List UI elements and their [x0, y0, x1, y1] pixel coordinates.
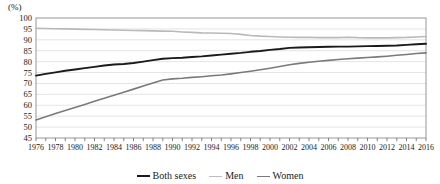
- x-axis-tick-label: 1992: [184, 143, 200, 152]
- x-axis-tick-label: 1978: [48, 143, 64, 152]
- legend-color-swatch: [137, 175, 150, 177]
- legend-item[interactable]: Women: [257, 171, 304, 181]
- x-axis-tick-labels: 1976197819801982198419861988199019921994…: [28, 143, 434, 152]
- x-axis-tick-label: 2006: [321, 143, 337, 152]
- x-axis-tick-label: 1982: [87, 143, 103, 152]
- legend-item[interactable]: Men: [209, 171, 243, 181]
- line-chart: (%) 100959085807570656055504519761978198…: [0, 0, 440, 184]
- series-line-men: [36, 28, 426, 38]
- y-axis-tick-label: 85: [24, 46, 33, 56]
- y-axis-tick-label: 75: [24, 68, 33, 78]
- x-axis-tick-label: 1976: [28, 143, 44, 152]
- y-axis-tick-label: 90: [24, 35, 33, 45]
- y-axis-tick-label: 95: [24, 24, 33, 34]
- y-axis-tick-label: 45: [24, 133, 33, 143]
- y-axis-tick-label: 80: [24, 57, 33, 67]
- legend-color-swatch: [209, 176, 222, 177]
- x-axis-ticks: [36, 138, 426, 141]
- x-axis-tick-label: 1988: [145, 143, 161, 152]
- y-axis-tick-label: 65: [24, 89, 33, 99]
- y-gridlines: 1009590858075706560555045: [19, 13, 426, 143]
- legend-label: Both sexes: [153, 171, 197, 181]
- x-axis-tick-label: 2008: [340, 143, 356, 152]
- plot-frame: [36, 18, 426, 138]
- legend-item[interactable]: Both sexes: [137, 171, 197, 181]
- legend-label: Men: [225, 171, 243, 181]
- y-axis-tick-label: 100: [19, 13, 32, 23]
- x-axis-tick-label: 2002: [282, 143, 298, 152]
- x-axis-tick-label: 1990: [165, 143, 181, 152]
- y-axis-tick-label: 50: [24, 122, 33, 132]
- x-axis-tick-label: 1994: [204, 143, 220, 152]
- x-axis-tick-label: 1996: [223, 143, 239, 152]
- series-line-women: [36, 53, 426, 120]
- legend-label: Women: [273, 171, 304, 181]
- x-axis-tick-label: 2010: [360, 143, 376, 152]
- y-axis-tick-label: 60: [24, 100, 33, 110]
- x-axis-tick-label: 2014: [399, 143, 415, 152]
- x-axis-tick-label: 1980: [67, 143, 83, 152]
- series-line-both-sexes: [36, 44, 426, 76]
- x-axis-tick-label: 2004: [301, 143, 317, 152]
- x-axis-tick-label: 1986: [126, 143, 142, 152]
- x-axis-tick-label: 1998: [243, 143, 259, 152]
- x-axis-tick-label: 2000: [262, 143, 278, 152]
- x-axis-tick-label: 2012: [379, 143, 395, 152]
- chart-plot-area: 1009590858075706560555045197619781980198…: [0, 0, 440, 184]
- x-axis-tick-label: 1984: [106, 143, 122, 152]
- chart-legend: Both sexesMenWomen: [0, 171, 440, 181]
- x-axis-tick-label: 2016: [418, 143, 434, 152]
- y-axis-tick-label: 70: [24, 78, 33, 88]
- y-axis-tick-label: 55: [24, 111, 33, 121]
- legend-color-swatch: [257, 176, 270, 177]
